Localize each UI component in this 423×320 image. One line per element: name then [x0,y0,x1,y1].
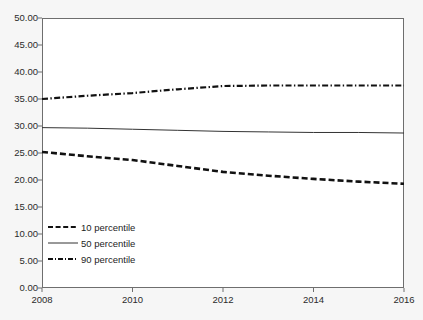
legend-item-90-percentile: 90 percentile [48,251,170,267]
legend-label: 90 percentile [78,254,135,265]
series-line [42,152,404,184]
y-tick-label: 30.00 [2,121,38,131]
y-tick-label: 35.00 [2,94,38,104]
legend-label: 50 percentile [78,238,135,249]
y-tick-marks [38,18,42,288]
legend-line-dashed-icon [48,221,78,233]
x-tick-marks [42,288,404,292]
legend-line-dashdot-icon [48,253,78,265]
y-tick-label: 45.00 [2,40,38,50]
legend-label: 10 percentile [78,222,135,233]
y-tick-label: 0.00 [2,283,38,293]
x-tick-label: 2016 [382,294,423,305]
series-line [42,86,404,100]
legend-item-50-percentile: 50 percentile [48,235,170,251]
x-tick-label: 2014 [292,294,336,305]
legend-line-solid-icon [48,237,78,249]
x-tick-label: 2010 [111,294,155,305]
series-lines [42,86,404,184]
y-tick-label: 5.00 [2,256,38,266]
y-tick-label: 15.00 [2,202,38,212]
y-tick-label: 40.00 [2,67,38,77]
chart-canvas [0,0,423,320]
y-axis-labels: 50.0045.0040.0035.0030.0025.0020.0015.00… [0,0,38,320]
series-line [42,128,404,133]
chart-figure: 50.0045.0040.0035.0030.0025.0020.0015.00… [0,0,423,320]
y-tick-label: 25.00 [2,148,38,158]
chart-legend: 10 percentile 50 percentile 90 percentil… [48,219,170,267]
y-tick-label: 50.00 [2,13,38,23]
x-tick-label: 2008 [20,294,64,305]
y-tick-label: 10.00 [2,229,38,239]
x-tick-label: 2012 [201,294,245,305]
y-tick-label: 20.00 [2,175,38,185]
legend-item-10-percentile: 10 percentile [48,219,170,235]
